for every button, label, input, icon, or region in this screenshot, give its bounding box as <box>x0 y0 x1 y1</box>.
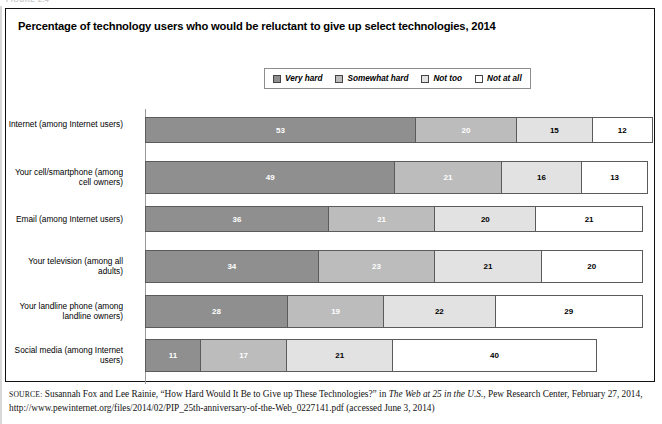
source-note: SOURCE: Susannah Fox and Lee Rainie, “Ho… <box>9 388 657 414</box>
legend-item-label: Not too <box>433 74 462 83</box>
bar-value-label: 23 <box>372 262 381 271</box>
legend-item-label: Somewhat hard <box>347 74 408 83</box>
bar-segment[interactable]: 11 <box>145 339 201 372</box>
bar-value-label: 21 <box>585 215 594 224</box>
legend-swatch-icon <box>421 75 429 83</box>
stacked-bar[interactable]: 53201512 <box>145 117 656 143</box>
bar-value-label: 20 <box>461 126 470 135</box>
bar-value-label: 20 <box>481 215 490 224</box>
bar-value-label: 40 <box>490 351 499 360</box>
bar-segment[interactable]: 34 <box>145 250 319 283</box>
bar-value-label: 21 <box>377 215 386 224</box>
legend-item-label: Not at all <box>487 74 522 83</box>
bar-segment[interactable]: 21 <box>394 161 501 194</box>
stacked-bar[interactable]: 36212021 <box>145 206 646 232</box>
bar-segment[interactable]: 21 <box>286 339 393 372</box>
bar-value-label: 49 <box>266 173 275 182</box>
chart-row: Your cell/smartphone (among cell owners)… <box>145 161 656 194</box>
bar-value-label: 19 <box>331 307 340 316</box>
category-label: Internet (among Internet users) <box>5 119 123 130</box>
page-left-rule <box>0 6 2 424</box>
plot-area: Internet (among Internet users)53201512Y… <box>145 109 656 384</box>
bar-value-label: 15 <box>550 126 559 135</box>
bar-value-label: 13 <box>610 173 619 182</box>
bar-segment[interactable]: 36 <box>145 206 329 232</box>
legend-swatch-icon <box>273 75 281 83</box>
bar-segment[interactable]: 49 <box>145 161 395 194</box>
bar-segment[interactable]: 29 <box>495 295 643 328</box>
bar-value-label: 34 <box>227 262 236 271</box>
category-label: Your cell/smartphone (among cell owners) <box>5 167 123 188</box>
legend-item[interactable]: Not too <box>421 74 462 83</box>
stacked-bar[interactable]: 11172140 <box>145 339 600 372</box>
bar-segment[interactable]: 20 <box>415 117 517 143</box>
source-italic-title: The Web at 25 in the U.S. <box>389 389 484 399</box>
bar-segment[interactable]: 20 <box>541 250 643 283</box>
bar-segment[interactable]: 53 <box>145 117 416 143</box>
bar-value-label: 36 <box>233 215 242 224</box>
bar-value-label: 12 <box>618 126 627 135</box>
bar-value-label: 22 <box>435 307 444 316</box>
chart-row: Your television (among all adults)342321… <box>145 250 656 283</box>
chart-legend: Very hardSomewhat hardNot tooNot at all <box>264 68 531 89</box>
chart-row: Social media (among Internet users)11172… <box>145 339 656 372</box>
bar-segment[interactable]: 22 <box>383 295 495 328</box>
bar-segment[interactable]: 21 <box>328 206 435 232</box>
legend-item-label: Very hard <box>285 74 322 83</box>
chart-row: Your landline phone (among landline owne… <box>145 295 656 328</box>
bar-segment[interactable]: 17 <box>200 339 287 372</box>
bar-segment[interactable]: 40 <box>392 339 596 372</box>
chart-title: Percentage of technology users who would… <box>18 20 496 32</box>
chart-row: Email (among Internet users)36212021 <box>145 206 656 232</box>
source-text-1: Susannah Fox and Lee Rainie, “How Hard W… <box>42 389 388 399</box>
stacked-bar[interactable]: 28192229 <box>145 295 646 328</box>
bar-segment[interactable]: 19 <box>287 295 384 328</box>
bar-value-label: 29 <box>564 307 573 316</box>
bar-segment[interactable]: 28 <box>145 295 288 328</box>
bar-segment[interactable]: 16 <box>501 161 583 194</box>
legend-swatch-icon <box>335 75 343 83</box>
stacked-bar[interactable]: 49211613 <box>145 161 651 194</box>
bar-value-label: 53 <box>276 126 285 135</box>
figure-page: FIGURE 2.4 Percentage of technology user… <box>0 0 662 424</box>
bar-value-label: 21 <box>444 173 453 182</box>
figure-number-cutoff: FIGURE 2.4 <box>6 0 49 4</box>
legend-swatch-icon <box>475 75 483 83</box>
bar-segment[interactable]: 15 <box>516 117 593 143</box>
bar-segment[interactable]: 23 <box>318 250 436 283</box>
category-label: Email (among Internet users) <box>5 214 123 225</box>
bar-value-label: 21 <box>335 351 344 360</box>
stacked-bar[interactable]: 34232120 <box>145 250 646 283</box>
bar-segment[interactable]: 21 <box>434 250 541 283</box>
bar-value-label: 20 <box>587 262 596 271</box>
legend-item[interactable]: Very hard <box>273 74 322 83</box>
legend-item[interactable]: Not at all <box>475 74 522 83</box>
bar-value-label: 17 <box>239 351 248 360</box>
bar-value-label: 16 <box>537 173 546 182</box>
source-label: SOURCE: <box>9 390 42 399</box>
category-label: Your television (among all adults) <box>5 256 123 277</box>
category-label: Social media (among Internet users) <box>5 345 123 366</box>
figure-box: Percentage of technology users who would… <box>5 8 655 382</box>
chart-row: Internet (among Internet users)53201512 <box>145 117 656 143</box>
bar-segment[interactable]: 12 <box>592 117 653 143</box>
bar-segment[interactable]: 20 <box>434 206 536 232</box>
bar-segment[interactable]: 13 <box>581 161 647 194</box>
legend-item[interactable]: Somewhat hard <box>335 74 408 83</box>
category-label: Your landline phone (among landline owne… <box>5 301 123 322</box>
bar-value-label: 21 <box>483 262 492 271</box>
bar-segment[interactable]: 21 <box>535 206 642 232</box>
bar-value-label: 28 <box>212 307 221 316</box>
bar-value-label: 11 <box>169 351 177 360</box>
